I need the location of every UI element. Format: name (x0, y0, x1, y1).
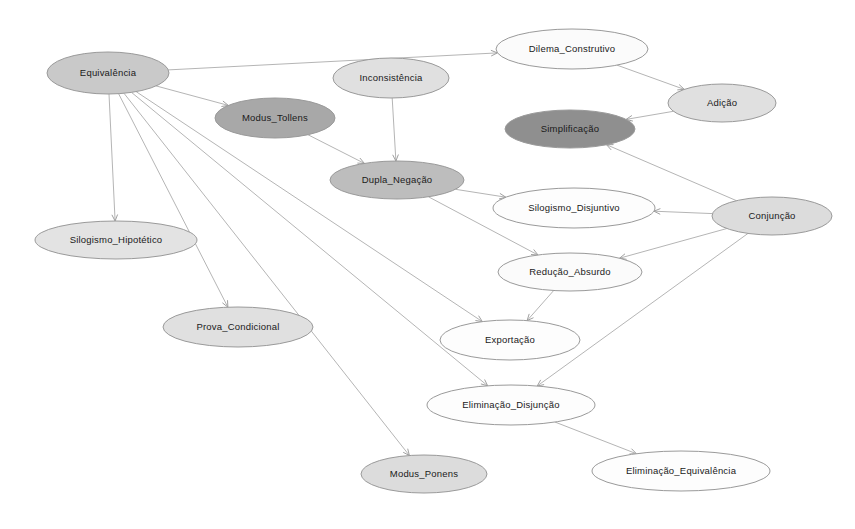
node-label: Simplificação (541, 123, 600, 134)
graph-node-eliminacao_equivalencia[interactable]: Eliminação_Equivalência (592, 451, 770, 491)
node-label: Dupla_Negação (362, 174, 433, 185)
graph-edge (617, 65, 684, 89)
graph-svg: EquivalênciaInconsistênciaDilema_Constru… (0, 0, 855, 529)
node-label: Prova_Condicional (196, 321, 279, 332)
graph-edge (308, 135, 365, 164)
node-label: Adição (707, 97, 737, 108)
node-label: Exportação (485, 334, 535, 345)
graph-edge (654, 211, 713, 213)
graph-node-equivalencia[interactable]: Equivalência (47, 52, 169, 94)
graph-edge (456, 189, 506, 197)
graph-node-silogismo_disjuntivo[interactable]: Silogismo_Disjuntivo (493, 188, 655, 228)
graph-node-prova_condicional[interactable]: Prova_Condicional (163, 307, 313, 347)
node-label: Modus_Tollens (242, 112, 308, 123)
node-layer: EquivalênciaInconsistênciaDilema_Constru… (35, 29, 832, 493)
graph-node-conjuncao[interactable]: Conjunção (712, 197, 832, 235)
graph-edge (168, 53, 497, 70)
graph-node-adicao[interactable]: Adição (668, 84, 776, 122)
graph-edge (527, 291, 554, 321)
graph-node-dilema_construtivo[interactable]: Dilema_Construtivo (496, 29, 648, 69)
graph-edge (626, 111, 673, 119)
inference-graph-canvas: EquivalênciaInconsistênciaDilema_Constru… (0, 0, 855, 529)
graph-node-inconsistencia[interactable]: Inconsistência (333, 58, 449, 98)
graph-edge (555, 422, 637, 454)
graph-edge (124, 93, 409, 455)
graph-node-dupla_negacao[interactable]: Dupla_Negação (330, 161, 464, 199)
graph-edge (392, 98, 396, 161)
node-label: Conjunção (748, 210, 795, 221)
graph-node-modus_ponens[interactable]: Modus_Ponens (361, 455, 487, 493)
node-label: Modus_Ponens (390, 468, 458, 479)
graph-edge (109, 94, 115, 221)
graph-node-simplificacao[interactable]: Simplificação (505, 110, 635, 148)
graph-edge (620, 229, 727, 259)
edge-layer (109, 50, 748, 455)
node-label: Equivalência (80, 67, 137, 78)
node-label: Dilema_Construtivo (529, 43, 616, 54)
graph-edge (156, 86, 228, 106)
node-label: Eliminação_Disjunção (462, 399, 559, 410)
graph-node-reducao_absurdo[interactable]: Redução_Absurdo (498, 253, 642, 291)
graph-node-eliminacao_disjuncao[interactable]: Eliminação_Disjunção (427, 385, 595, 425)
node-label: Inconsistência (359, 72, 423, 83)
edge-arrowhead-icon (475, 316, 482, 322)
node-label: Silogismo_Disjuntivo (528, 202, 620, 213)
node-label: Eliminação_Equivalência (626, 465, 737, 476)
graph-edge (119, 94, 228, 308)
graph-node-modus_tollens[interactable]: Modus_Tollens (215, 98, 335, 138)
node-label: Silogismo_Hipotético (70, 234, 163, 245)
graph-node-silogismo_hipotetico[interactable]: Silogismo_Hipotético (35, 221, 197, 259)
node-label: Redução_Absurdo (529, 266, 611, 277)
graph-node-exportacao[interactable]: Exportação (440, 320, 580, 360)
